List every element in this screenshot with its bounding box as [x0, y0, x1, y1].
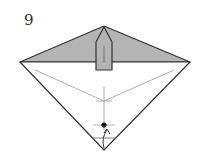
white-bottom-triangle — [20, 62, 190, 150]
reference-point-dot — [101, 122, 106, 127]
origami-diagram — [0, 0, 205, 160]
